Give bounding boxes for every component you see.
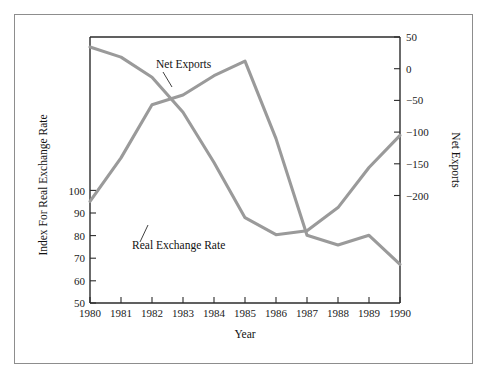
- right-axis-tick-labels: 50 0 −50 −100 −150 −200: [406, 31, 429, 202]
- series-real-exchange-rate: [90, 61, 400, 264]
- left-tick-label: 60: [74, 275, 86, 287]
- y-axis-title-right: Net Exports: [449, 132, 462, 188]
- right-axis-ticks: [394, 37, 400, 196]
- left-tick-label: 80: [74, 230, 86, 242]
- series-net-exports: [90, 47, 400, 235]
- left-tick-label: 70: [74, 252, 86, 264]
- x-tick-label: 1984: [203, 307, 226, 319]
- bottom-axis-ticks: [90, 297, 400, 303]
- x-tick-label: 1983: [172, 307, 195, 319]
- x-tick-label: 1990: [389, 307, 412, 319]
- plot-axes: [90, 37, 400, 303]
- left-axis-ticks: [90, 190, 96, 303]
- right-tick-label: 0: [406, 63, 412, 75]
- real-exchange-rate-line: [90, 61, 400, 264]
- left-tick-label: 100: [69, 185, 86, 197]
- net-exports-line: [90, 47, 400, 235]
- left-tick-label: 90: [74, 207, 86, 219]
- bottom-axis-tick-labels: 1980 1981 1982 1983 1984 1985 1986 1987 …: [79, 307, 412, 319]
- x-tick-label: 1986: [265, 307, 288, 319]
- y-axis-title-left: Index For Real Exchange Rate: [37, 114, 50, 255]
- real-exchange-rate-label: Real Exchange Rate: [132, 239, 225, 252]
- x-tick-label: 1985: [234, 307, 257, 319]
- right-tick-label: −200: [406, 190, 429, 202]
- chart-figure: 100 90 80 70 60 50 50 0 −50 −100 −150 −2…: [0, 0, 490, 382]
- net-exports-label: Net Exports: [156, 58, 212, 71]
- annotation-real-exchange-rate: Real Exchange Rate: [132, 225, 225, 252]
- chart-canvas: 100 90 80 70 60 50 50 0 −50 −100 −150 −2…: [0, 0, 490, 382]
- x-axis-title: Year: [234, 328, 255, 340]
- left-axis-tick-labels: 100 90 80 70 60 50: [69, 185, 86, 309]
- right-tick-label: −100: [406, 126, 429, 138]
- x-tick-label: 1989: [358, 307, 381, 319]
- x-tick-label: 1981: [110, 307, 132, 319]
- right-tick-label: −50: [406, 94, 424, 106]
- x-tick-label: 1982: [141, 307, 163, 319]
- right-tick-label: 50: [406, 31, 418, 43]
- x-tick-label: 1988: [327, 307, 350, 319]
- x-tick-label: 1980: [79, 307, 102, 319]
- right-tick-label: −150: [406, 158, 429, 170]
- net-exports-leader: [163, 72, 172, 87]
- x-tick-label: 1987: [296, 307, 319, 319]
